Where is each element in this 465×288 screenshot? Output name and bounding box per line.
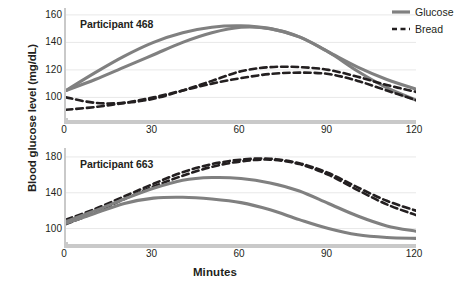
x-axis-ticks-bottom: 0306090120 — [64, 249, 416, 263]
y-tick-label: 100 — [38, 92, 62, 102]
legend-label-bread: Bread — [415, 23, 443, 35]
legend-swatch-glucose-icon — [392, 7, 410, 17]
series-line-glucose — [66, 27, 416, 100]
legend: Glucose Bread — [392, 4, 464, 38]
series-line-glucose — [66, 26, 416, 91]
legend-item-glucose: Glucose — [392, 4, 464, 19]
series-line-bread — [66, 67, 416, 104]
y-tick-label: 140 — [38, 37, 62, 47]
chart-panel-participant-663: 100140180 Participant 663 0306090120 — [38, 148, 450, 266]
x-tick-label: 90 — [312, 249, 342, 259]
x-tick-label: 0 — [49, 125, 79, 135]
y-tick-label: 100 — [38, 224, 62, 234]
panel-title-top: Participant 468 — [80, 18, 153, 30]
chart-panel-participant-468: 100120140160 Participant 468 0306090120 — [38, 8, 450, 136]
y-tick-label: 180 — [38, 152, 62, 162]
legend-item-bread: Bread — [392, 21, 464, 36]
legend-label-glucose: Glucose — [415, 6, 454, 18]
x-tick-label: 90 — [312, 125, 342, 135]
y-axis-ticks-top: 100120140160 — [38, 8, 62, 136]
y-axis-label: Blood glucose level (mg/dL) — [26, 23, 38, 213]
y-tick-label: 160 — [38, 10, 62, 20]
x-tick-label: 30 — [137, 249, 167, 259]
x-tick-label: 60 — [224, 125, 254, 135]
y-tick-label: 120 — [38, 65, 62, 75]
x-axis-label: Minutes — [0, 266, 430, 278]
x-tick-label: 0 — [49, 249, 79, 259]
panel-title-bottom: Participant 663 — [80, 158, 153, 170]
x-tick-label: 60 — [224, 249, 254, 259]
x-tick-label: 30 — [137, 125, 167, 135]
y-tick-label: 140 — [38, 188, 62, 198]
figure: Blood glucose level (mg/dL) 100120140160… — [0, 0, 465, 288]
x-tick-label: 120 — [399, 249, 429, 259]
x-axis-ticks-top: 0306090120 — [64, 125, 416, 139]
legend-swatch-bread-icon — [392, 24, 410, 34]
x-tick-label: 120 — [399, 125, 429, 135]
